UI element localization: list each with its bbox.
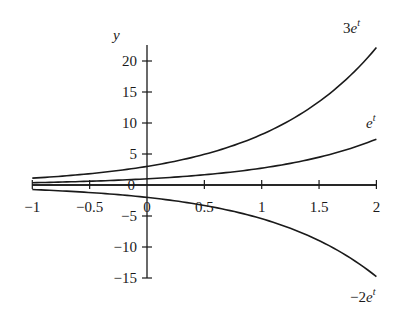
y-axis-label: y bbox=[111, 27, 120, 43]
y-tick-label: −5 bbox=[121, 208, 137, 224]
curve-e-t bbox=[32, 139, 376, 183]
curve-label: 3et bbox=[343, 17, 360, 36]
y-tick-label: 0 bbox=[128, 177, 136, 193]
curve-3e-t bbox=[32, 48, 376, 179]
x-tick-label: 0 bbox=[143, 199, 151, 215]
y-tick-label: 5 bbox=[130, 146, 138, 162]
exponential-chart: −1−0.50.511.520−15−10−505101520y3etet−2e… bbox=[0, 0, 393, 317]
x-tick-label: 1.5 bbox=[310, 199, 329, 215]
curve-label: et bbox=[366, 112, 376, 131]
y-tick-label: 15 bbox=[122, 84, 137, 100]
y-tick-label: −15 bbox=[114, 270, 137, 286]
y-tick-label: 20 bbox=[122, 53, 137, 69]
labels: −1−0.50.511.520−15−10−505101520y3etet−2e… bbox=[24, 17, 380, 305]
x-tick-label: 0.5 bbox=[195, 199, 214, 215]
x-tick-label: −1 bbox=[24, 199, 40, 215]
x-tick-label: −0.5 bbox=[76, 199, 103, 215]
x-tick-label: 1 bbox=[258, 199, 266, 215]
y-tick-label: 10 bbox=[122, 115, 137, 131]
y-tick-label: −10 bbox=[114, 239, 137, 255]
curves bbox=[32, 48, 376, 277]
curve-label: −2et bbox=[350, 286, 376, 305]
x-tick-label: 2 bbox=[373, 199, 381, 215]
